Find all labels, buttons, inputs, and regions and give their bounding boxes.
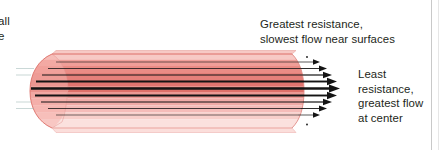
label-greatest-resistance: Greatest resistance, slowest flow near s… bbox=[260, 17, 395, 46]
label-least-resistance-line-1: Least bbox=[358, 67, 423, 82]
vessel-top-lip bbox=[52, 51, 296, 55]
label-greatest-resistance-line-2: slowest flow near surfaces bbox=[260, 32, 395, 47]
label-least-resistance: Least resistance, greatest flow at cente… bbox=[358, 67, 423, 125]
vessel-gloss bbox=[28, 54, 308, 129]
flow-arrow bbox=[303, 99, 332, 106]
flow-arrow bbox=[304, 85, 340, 93]
label-least-resistance-line-4: at center bbox=[358, 111, 423, 126]
flow-arrow bbox=[298, 59, 320, 64]
label-least-resistance-line-3: greatest flow bbox=[358, 96, 423, 111]
flow-arrow bbox=[304, 92, 337, 99]
flow-arrow bbox=[301, 106, 327, 112]
flow-arrow-stub bbox=[306, 56, 308, 58]
label-greatest-resistance-line-1: Greatest resistance, bbox=[260, 17, 395, 32]
flow-arrow bbox=[303, 72, 332, 79]
flow-arrow bbox=[301, 66, 327, 72]
flow-arrow bbox=[304, 78, 337, 85]
figure-canvas: all e bbox=[0, 0, 439, 150]
vessel-bottom-lip bbox=[52, 128, 296, 133]
page-gutter-rule bbox=[431, 0, 432, 150]
flow-arrow-stub bbox=[306, 124, 308, 126]
label-least-resistance-line-2: resistance, bbox=[358, 82, 423, 97]
